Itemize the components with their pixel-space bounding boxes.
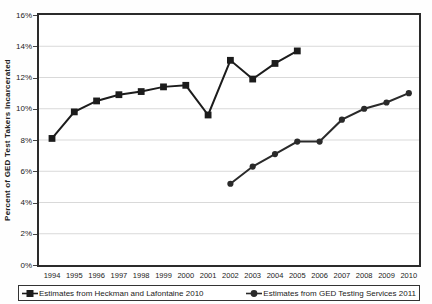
data-point-marker — [383, 99, 389, 105]
y-tick-label: 6% — [0, 167, 32, 176]
plot-area — [37, 13, 421, 267]
legend-marker-square-icon — [22, 289, 38, 298]
legend-label: Estimates from Heckman and Lafontaine 20… — [39, 289, 204, 298]
y-tick-label: 16% — [0, 11, 32, 20]
data-point-marker — [93, 98, 100, 105]
plot-svg — [39, 15, 419, 265]
y-tick-label: 14% — [0, 42, 32, 51]
y-tick-label: 2% — [0, 229, 32, 238]
data-point-marker — [317, 138, 323, 144]
data-point-marker — [272, 151, 278, 157]
data-point-marker — [294, 48, 301, 55]
data-point-marker — [138, 88, 145, 95]
legend-marker-circle-icon — [246, 289, 262, 298]
data-point-marker — [249, 76, 256, 83]
data-point-marker — [361, 106, 367, 112]
legend-box: Estimates from Heckman and Lafontaine 20… — [18, 285, 420, 301]
data-point-marker — [116, 91, 123, 98]
y-tick-label: 0% — [0, 261, 32, 270]
data-point-marker — [250, 163, 256, 169]
series-line-1 — [230, 93, 408, 184]
y-tick-label: 10% — [0, 104, 32, 113]
y-tick-label: 4% — [0, 198, 32, 207]
data-point-marker — [182, 82, 189, 89]
data-point-marker — [227, 181, 233, 187]
legend-entry: Estimates from GED Testing Services 2011 — [246, 289, 416, 298]
data-point-marker — [205, 112, 212, 119]
legend-entry: Estimates from Heckman and Lafontaine 20… — [22, 289, 204, 298]
y-tick-label: 12% — [0, 73, 32, 82]
data-point-marker — [272, 60, 279, 67]
data-point-marker — [227, 57, 234, 64]
chart-figure: Percent of GED Test Takers Incarcerated … — [0, 0, 432, 304]
data-point-marker — [339, 117, 345, 123]
legend-label: Estimates from GED Testing Services 2011 — [263, 289, 416, 298]
x-tick-label: 2010 — [394, 271, 424, 280]
series-line-0 — [52, 51, 297, 139]
data-point-marker — [160, 83, 167, 90]
y-tick-label: 8% — [0, 136, 32, 145]
data-point-marker — [49, 135, 56, 142]
data-point-marker — [294, 138, 300, 144]
data-point-marker — [71, 108, 78, 115]
data-point-marker — [406, 90, 412, 96]
